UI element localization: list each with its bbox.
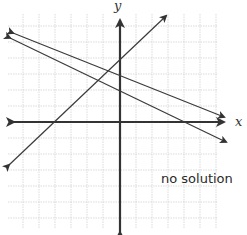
rising-line bbox=[9, 16, 166, 165]
y-axis-label: y bbox=[114, 0, 121, 12]
x-axis-label: x bbox=[235, 115, 242, 128]
falling-line-upper bbox=[13, 33, 224, 117]
caption-no-solution: no solution bbox=[161, 172, 233, 185]
graph-canvas: y x no solution bbox=[0, 0, 247, 235]
coordinate-plane bbox=[0, 0, 247, 235]
